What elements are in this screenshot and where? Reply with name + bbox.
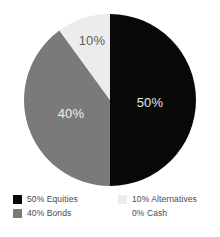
pie-chart-svg: 50% 40% 10%	[0, 0, 220, 192]
legend-item-bonds[interactable]: 40% Bonds	[13, 206, 118, 220]
legend-swatch-equities	[13, 195, 22, 204]
legend-swatch-cash	[118, 209, 127, 218]
legend-swatch-alternatives	[118, 195, 127, 204]
pie-slice-label-alternatives: 10%	[79, 33, 106, 48]
pie-slice-label-bonds: 40%	[58, 106, 85, 121]
chart-legend: 50% Equities 10% Alternatives 40% Bonds …	[0, 192, 220, 237]
legend-item-equities[interactable]: 50% Equities	[13, 192, 118, 206]
legend-label-bonds: 40% Bonds	[27, 208, 71, 218]
legend-item-alternatives[interactable]: 10% Alternatives	[118, 192, 220, 206]
legend-item-cash[interactable]: 0% Cash	[118, 206, 220, 220]
pie-slices	[24, 14, 196, 186]
legend-label-equities: 50% Equities	[27, 194, 78, 204]
pie-slice-label-equities: 50%	[137, 95, 164, 110]
pie-chart-plot-area: 50% 40% 10%	[0, 0, 220, 192]
legend-label-alternatives: 10% Alternatives	[132, 194, 197, 204]
legend-label-cash: 0% Cash	[132, 208, 167, 218]
pie-chart-figure: 50% 40% 10% 50% Equities 10% Alternative…	[0, 0, 220, 237]
legend-swatch-bonds	[13, 209, 22, 218]
